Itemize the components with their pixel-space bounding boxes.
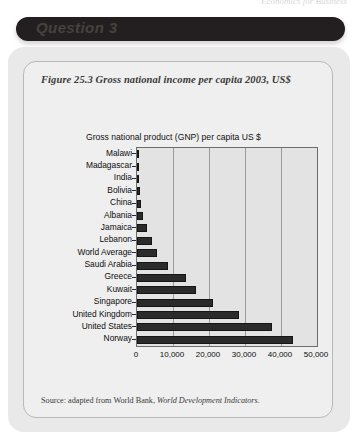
chart-category-label: Malawi <box>106 149 132 158</box>
source-suffix: . <box>258 396 260 405</box>
chart-plot-area <box>136 147 318 347</box>
source-italic-title: World Development Indicators <box>157 396 258 405</box>
chart-axis-tick <box>132 153 136 154</box>
running-header-text: Economics for Business <box>261 0 347 6</box>
chart-axis-tick <box>132 277 136 278</box>
chart-xtick-label: 50,000 <box>304 350 328 359</box>
chart-xtick-label: 30,000 <box>232 350 256 359</box>
chart-axis-tick <box>132 166 136 167</box>
chart-category-label: Norway <box>104 334 132 343</box>
chart-bar <box>137 212 143 220</box>
chart-plot-wrapper: MalawiMadagascarIndiaBoliviaChinaAlbania… <box>24 147 334 362</box>
chart-bar <box>137 224 147 232</box>
chart-category-label: Albania <box>104 211 132 220</box>
chart-category-label: Greece <box>105 272 132 281</box>
chart-axis-tick <box>132 203 136 204</box>
question-banner: Question 3 <box>16 17 345 41</box>
chart-axis-tick <box>132 190 136 191</box>
chart-axis-tick <box>132 178 136 179</box>
chart-xtick-label: 20,000 <box>196 350 220 359</box>
chart-category-label: Madagascar <box>86 161 132 170</box>
chart-bar <box>137 163 139 171</box>
chart-bar <box>137 150 139 158</box>
chart-axis-tick <box>132 240 136 241</box>
chart-category-label: Bolivia <box>107 186 132 195</box>
chart-bar <box>137 299 213 307</box>
chart-category-label: China <box>110 198 132 207</box>
chart-axis-tick <box>132 339 136 340</box>
chart-category-label: Lebanon <box>99 235 132 244</box>
chart-category-label: United Kingdom <box>72 310 132 319</box>
figure-source-note: Source: adapted from World Bank, World D… <box>41 396 260 405</box>
chart-category-label: World Average <box>77 248 132 257</box>
chart-gridline <box>281 148 282 346</box>
question-label: Question 3 <box>36 19 118 36</box>
chart-axis-tick <box>132 289 136 290</box>
chart-axis-tick <box>132 215 136 216</box>
chart-category-label: Singapore <box>94 297 132 306</box>
running-header: Economics for Business <box>0 0 361 13</box>
chart-category-label: Jamaica <box>101 223 132 232</box>
chart-gridline <box>245 148 246 346</box>
chart-bar <box>137 200 141 208</box>
chart-bar <box>137 323 272 331</box>
chart-category-label: Saudi Arabia <box>85 260 133 269</box>
chart-xtick-label: 10,000 <box>160 350 184 359</box>
chart-axis-tick <box>132 252 136 253</box>
chart-bar <box>137 175 139 183</box>
chart-bar <box>137 286 196 294</box>
chart-bar <box>137 311 239 319</box>
chart-bar <box>137 187 140 195</box>
chart-title: Gross national product (GNP) per capita … <box>86 132 326 142</box>
chart-category-label: United States <box>82 322 132 331</box>
chart-axis-tick <box>132 314 136 315</box>
chart-bar <box>137 249 157 257</box>
chart-axis-tick <box>132 302 136 303</box>
chart-bar <box>137 237 152 245</box>
chart-category-label: Kuwait <box>107 285 132 294</box>
source-prefix: Source: adapted from World Bank, <box>41 396 157 405</box>
figure-panel: Figure 25.3 Gross national income per ca… <box>8 47 350 432</box>
chart-bar <box>137 262 168 270</box>
figure-inner-card: Figure 25.3 Gross national income per ca… <box>23 61 333 418</box>
chart-xtick-label: 0 <box>134 350 138 359</box>
chart-category-labels: MalawiMadagascarIndiaBoliviaChinaAlbania… <box>24 147 136 347</box>
chart-category-label: India <box>114 173 132 182</box>
chart-axis-tick <box>132 227 136 228</box>
chart-axis-tick <box>132 326 136 327</box>
chart-bar <box>137 336 293 344</box>
figure-caption: Figure 25.3 Gross national income per ca… <box>41 74 321 85</box>
chart-xtick-label: 40,000 <box>268 350 292 359</box>
chart-axis-tick <box>132 265 136 266</box>
chart-bar <box>137 274 186 282</box>
